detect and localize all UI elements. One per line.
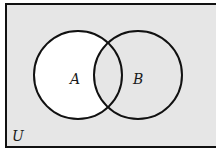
set-b-label: B bbox=[132, 71, 143, 87]
universe-label: U bbox=[12, 128, 25, 144]
venn-diagram: A B U bbox=[0, 0, 216, 151]
set-a-label: A bbox=[68, 71, 80, 87]
